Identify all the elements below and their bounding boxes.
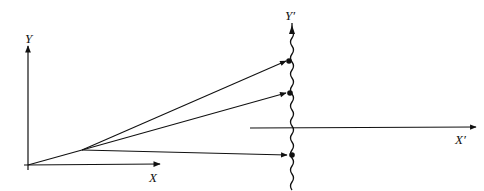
dot-bottom bbox=[289, 152, 295, 158]
dot-middle bbox=[287, 90, 293, 96]
x-axis-label: X bbox=[148, 170, 158, 185]
frame-xy: Y X bbox=[24, 31, 160, 185]
y-axis-label: Y bbox=[25, 31, 34, 46]
frame-x-prime-y-prime: Y′ X′ bbox=[250, 8, 476, 190]
dot-top bbox=[286, 58, 292, 64]
ray-bottom bbox=[82, 150, 287, 155]
base-ray bbox=[28, 150, 82, 165]
y-prime-arrowhead bbox=[289, 25, 295, 34]
y-prime-label: Y′ bbox=[285, 8, 295, 23]
x-prime-label: X′ bbox=[454, 132, 466, 147]
x-prime-axis bbox=[250, 127, 476, 128]
rays bbox=[28, 61, 287, 165]
wavy-y-prime-axis bbox=[291, 23, 294, 190]
ray-middle bbox=[82, 93, 286, 150]
diagram-canvas: Y X Y′ X′ bbox=[0, 0, 484, 191]
x-axis bbox=[24, 164, 160, 165]
ray-top bbox=[82, 61, 286, 150]
